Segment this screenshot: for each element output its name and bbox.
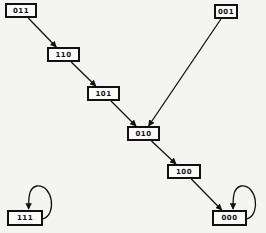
state-node-111: 111	[7, 210, 43, 226]
state-node-000: 000	[212, 210, 247, 226]
state-node-100: 100	[167, 164, 201, 179]
state-node-001: 001	[214, 4, 238, 19]
edge-110-to-101	[71, 62, 96, 86]
edges-layer	[0, 0, 266, 233]
state-node-101: 101	[87, 86, 120, 101]
edge-011-to-110	[28, 18, 56, 47]
state-diagram: 011110101001010100000111	[0, 0, 266, 233]
state-node-110: 110	[47, 47, 80, 62]
state-node-011: 011	[5, 3, 37, 18]
state-node-010: 010	[127, 126, 160, 141]
edge-010-to-100	[151, 141, 176, 164]
edge-101-to-010	[111, 101, 136, 126]
edge-001-to-010	[149, 19, 221, 126]
edge-100-to-000	[191, 179, 221, 210]
